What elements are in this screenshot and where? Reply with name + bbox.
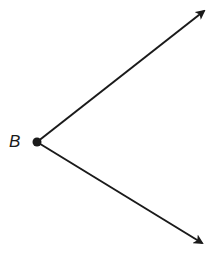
vertex-label: B <box>9 132 20 152</box>
angle-diagram <box>0 0 218 255</box>
vertex-point <box>33 138 42 147</box>
upper-ray <box>37 11 204 142</box>
lower-ray <box>37 142 202 243</box>
